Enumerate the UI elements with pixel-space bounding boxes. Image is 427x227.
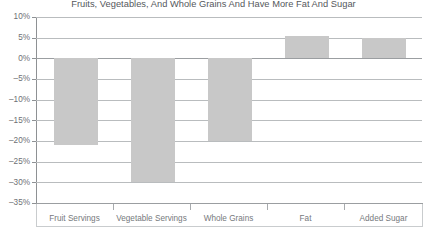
x-axis-separator bbox=[344, 204, 345, 210]
chart-title: Fruits, Vegetables, And Whole Grains And… bbox=[0, 0, 427, 11]
gridline-neg30 bbox=[36, 182, 422, 183]
y-axis-label-neg10: –10% bbox=[0, 96, 30, 104]
gridline-neg25 bbox=[36, 162, 422, 163]
x-axis-label-whole-grains: Whole Grains bbox=[190, 214, 267, 223]
x-axis-label-vegetable-servings: Vegetable Servings bbox=[113, 214, 190, 223]
x-axis-separator bbox=[190, 204, 191, 210]
y-axis-label-neg30: –30% bbox=[0, 179, 30, 187]
y-axis-label-neg5: –5% bbox=[0, 75, 30, 83]
y-axis-label-0: 0% bbox=[0, 55, 30, 63]
y-axis-label-neg15: –15% bbox=[0, 117, 30, 125]
bar-vegetable-servings bbox=[131, 58, 175, 182]
x-axis-separator bbox=[267, 204, 268, 210]
x-axis-separator bbox=[113, 204, 114, 210]
x-axis-label-fat: Fat bbox=[267, 214, 344, 223]
x-axis-label-fruit-servings: Fruit Servings bbox=[36, 214, 113, 223]
x-axis-label-added-sugar: Added Sugar bbox=[344, 214, 423, 223]
y-axis-label-neg35: –35% bbox=[0, 199, 30, 207]
x-axis-labels: Fruit Servings Vegetable Servings Whole … bbox=[36, 204, 423, 227]
x-axis-frame-left bbox=[36, 204, 37, 227]
x-axis-frame-right bbox=[422, 204, 423, 227]
bar-fat bbox=[285, 36, 329, 59]
gridline-10 bbox=[36, 17, 422, 18]
y-axis-label-10: 10% bbox=[0, 13, 30, 21]
plot-area bbox=[36, 17, 422, 203]
y-axis-label-5: 5% bbox=[0, 34, 30, 42]
y-axis-label-neg25: –25% bbox=[0, 158, 30, 166]
x-axis-frame-bottom bbox=[36, 226, 423, 227]
bar-fruit-servings bbox=[54, 58, 98, 145]
bar-whole-grains bbox=[208, 58, 252, 141]
bar-chart: Fruits, Vegetables, And Whole Grains And… bbox=[0, 0, 427, 227]
y-axis-label-neg20: –20% bbox=[0, 137, 30, 145]
bar-added-sugar bbox=[362, 38, 406, 59]
